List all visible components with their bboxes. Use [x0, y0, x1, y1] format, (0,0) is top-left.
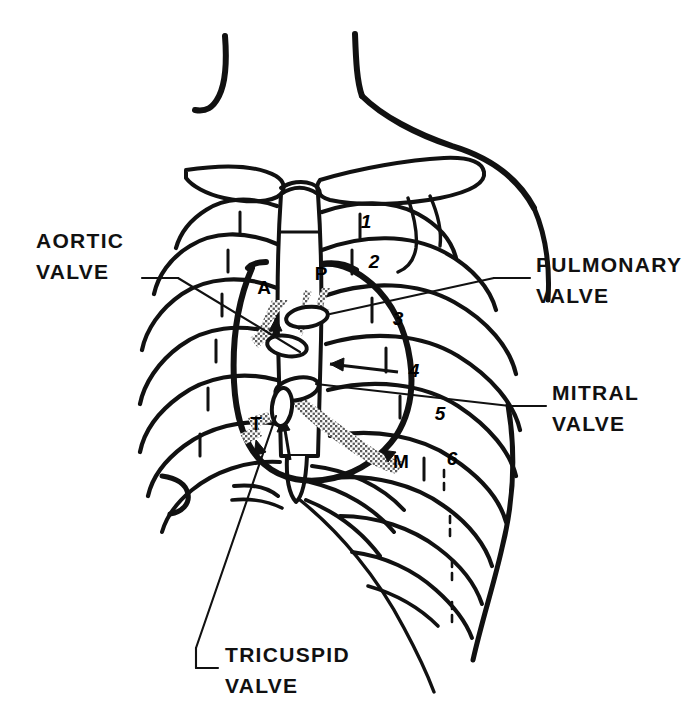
rib-number-4: 4 [408, 360, 420, 381]
label-mitral-line2: VALVE [552, 412, 625, 435]
label-mitral-line1: MITRAL [552, 381, 639, 404]
valve-marker-mitral: M [393, 451, 409, 472]
label-tricuspid-line1: TRICUSPID [225, 643, 350, 666]
label-pulmonary-line1: PULMONARY [536, 253, 682, 276]
label-aortic-line2: VALVE [36, 260, 109, 283]
label-tricuspid-line2: VALVE [225, 674, 298, 697]
label-pulmonary-line2: VALVE [536, 284, 609, 307]
canvas-background [0, 0, 699, 708]
rib-number-3: 3 [393, 308, 404, 329]
valve-marker-aortic: A [257, 277, 271, 298]
rib-number-6: 6 [447, 448, 458, 469]
rib-number-2: 2 [368, 251, 380, 272]
rib-number-1: 1 [361, 211, 372, 232]
valve-marker-pulmonary: P [315, 263, 328, 284]
diagram-canvas: AORTICVALVEPULMONARYVALVEMITRALVALVETRIC… [0, 0, 699, 708]
label-aortic-line1: AORTIC [36, 229, 124, 252]
anatomical-diagram: AORTICVALVEPULMONARYVALVEMITRALVALVETRIC… [0, 0, 699, 708]
valve-marker-tricuspid: T [250, 413, 262, 434]
rib-number-5: 5 [435, 403, 446, 424]
